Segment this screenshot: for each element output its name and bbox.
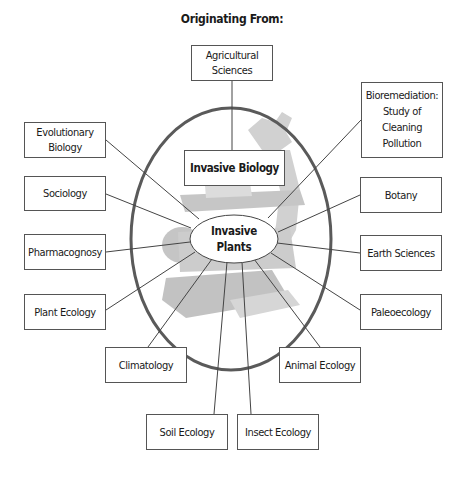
node-label-line: Biology: [36, 140, 93, 155]
node-botany: Botany: [360, 177, 442, 213]
node-insect-ecology: Insect Ecology: [237, 414, 319, 450]
node-label: Botany: [385, 188, 418, 203]
node-label-line: Sciences: [206, 63, 259, 78]
node-label: Paleoecology: [371, 305, 431, 320]
node-label-line: Bioremediation:: [366, 88, 439, 104]
node-agricultural-sciences: AgriculturalSciences: [191, 45, 273, 81]
diagram-title: Originating From:: [0, 12, 464, 26]
node-label: Sociology: [43, 186, 87, 201]
node-plant-ecology: Plant Ecology: [24, 294, 106, 330]
node-soil-ecology: Soil Ecology: [146, 414, 228, 450]
node-label: Plant Ecology: [34, 305, 96, 320]
hub-invasive-biology: Invasive Biology: [184, 150, 285, 186]
node-bioremediation: Bioremediation:Study ofCleaningPollution: [361, 82, 443, 158]
node-label-line: Cleaning: [366, 120, 439, 136]
node-evolutionary-biology: EvolutionaryBiology: [24, 122, 106, 158]
node-label-line: Evolutionary: [36, 125, 93, 140]
center-label-line1: Invasive: [211, 223, 257, 239]
node-label-line: Agricultural: [206, 48, 259, 63]
node-label: Earth Sciences: [367, 246, 435, 261]
node-paleoecology: Paleoecology: [360, 294, 442, 330]
node-label: Animal Ecology: [285, 358, 355, 373]
center-node-invasive-plants: Invasive Plants: [190, 217, 278, 261]
node-sociology: Sociology: [24, 176, 106, 211]
hub-label: Invasive Biology: [190, 161, 279, 176]
node-animal-ecology: Animal Ecology: [279, 347, 361, 383]
node-label: Soil Ecology: [160, 425, 215, 440]
node-climatology: Climatology: [105, 347, 187, 383]
node-label: Climatology: [119, 358, 174, 373]
node-label-line: Pollution: [366, 136, 439, 152]
node-pharmacognosy: Pharmacognosy: [24, 234, 106, 270]
center-label-line2: Plants: [211, 239, 257, 255]
node-label: Insect Ecology: [245, 425, 311, 440]
node-label: Pharmacognosy: [28, 245, 102, 260]
node-earth-sciences: Earth Sciences: [360, 235, 442, 271]
node-label-line: Study of: [366, 104, 439, 120]
